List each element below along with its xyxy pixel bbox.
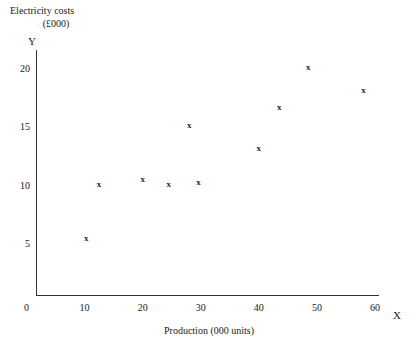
data-point: x <box>184 121 194 131</box>
scatter-plot-figure: Electricity costs (£000) Y X 5101520 010… <box>0 0 418 349</box>
data-point: x <box>303 63 313 73</box>
x-tick-label: 30 <box>189 302 213 313</box>
x-tick-label: 50 <box>305 302 329 313</box>
x-axis-title: Production (000 units) <box>0 325 418 336</box>
y-tick-label: 20 <box>8 63 30 74</box>
data-point: x <box>81 234 91 244</box>
y-axis-title-line2: (£000) <box>10 17 102 30</box>
y-tick-label: 15 <box>8 121 30 132</box>
y-axis-line <box>36 50 37 296</box>
x-tick-label: 60 <box>363 302 387 313</box>
data-point: x <box>138 175 148 185</box>
data-point: x <box>164 180 174 190</box>
y-tick-label: 10 <box>8 180 30 191</box>
data-point: x <box>254 144 264 154</box>
x-tick-label: 0 <box>15 302 39 313</box>
x-tick-label: 10 <box>73 302 97 313</box>
y-tick-label: 5 <box>8 238 30 249</box>
data-point: x <box>94 180 104 190</box>
y-axis-title: Electricity costs (£000) <box>10 4 102 30</box>
data-point: x <box>193 178 203 188</box>
data-point: x <box>358 86 368 96</box>
y-axis-title-line1: Electricity costs <box>10 5 74 16</box>
x-tick-label: 40 <box>247 302 271 313</box>
x-axis-letter: X <box>393 309 401 321</box>
x-axis-line <box>36 295 379 296</box>
y-axis-letter: Y <box>28 35 36 47</box>
data-point: x <box>274 103 284 113</box>
x-tick-label: 20 <box>131 302 155 313</box>
